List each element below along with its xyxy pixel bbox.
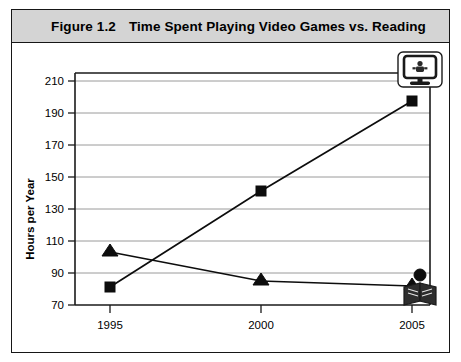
line-chart: Hours per Year 210 190 170 150 130 110 9… — [12, 43, 451, 353]
x-tick-label: 2005 — [399, 319, 425, 331]
open-book-icon — [404, 269, 436, 305]
y-tick-label: 190 — [45, 107, 64, 119]
data-point-video-games-2005 — [407, 96, 417, 106]
x-tick-label: 1995 — [97, 319, 123, 331]
y-tick-label: 90 — [51, 267, 64, 279]
data-point-reading-1995 — [102, 244, 118, 256]
x-tick-label: 2000 — [248, 319, 274, 331]
data-point-video-games-1995 — [105, 282, 115, 292]
figure-container: Figure 1.2Time Spent Playing Video Games… — [11, 9, 450, 353]
y-tick-label: 110 — [46, 235, 64, 247]
y-tick-label: 170 — [45, 139, 64, 151]
page-title: Figure 1.2Time Spent Playing Video Games… — [12, 4, 426, 49]
plot-area: Hours per Year 210 190 170 150 130 110 9… — [12, 43, 449, 353]
y-tick-label: 210 — [45, 75, 64, 87]
data-point-reading-2000 — [253, 273, 269, 285]
reading-icon-dot — [414, 269, 426, 281]
y-tick-label: 70 — [51, 299, 64, 311]
y-tick-label: 150 — [45, 171, 64, 183]
figure-title-bar: Figure 1.2Time Spent Playing Video Games… — [12, 10, 449, 43]
y-tick-label: 130 — [45, 203, 64, 215]
data-point-video-games-2000 — [256, 186, 266, 196]
computer-monitor-icon — [398, 52, 442, 87]
figure-caption: Time Spent Playing Video Games vs. Readi… — [129, 19, 426, 34]
figure-number: Figure 1.2 — [51, 19, 116, 34]
y-axis-title: Hours per Year — [24, 178, 36, 260]
